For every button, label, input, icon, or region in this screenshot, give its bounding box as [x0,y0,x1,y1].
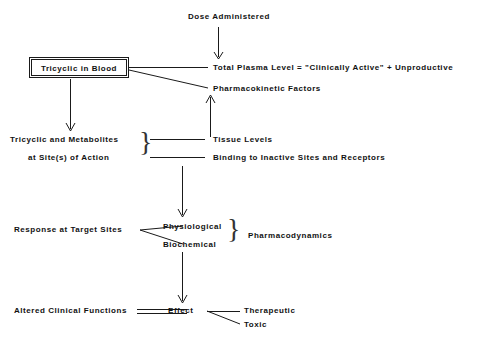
node-physiological: Physiological [163,222,222,232]
node-binding-to-inactive-sites: Binding to Inactive Sites and Receptors [213,153,385,163]
node-tissue-levels: Tissue Levels [213,135,272,145]
node-biochemical: Biochemical [163,240,216,250]
node-tricyclic-and-metabolites: Tricyclic and Metabolites [10,135,118,145]
node-dose-administered: Dose Administered [188,12,270,22]
node-therapeutic: Therapeutic [244,306,295,316]
diagram-connector-layer [0,0,493,340]
node-total-plasma-level: Total Plasma Level = "Clinically Active"… [213,63,453,73]
edge-effect-to-toxic [207,311,240,324]
node-response-at-target-sites: Response at Target Sites [14,225,122,235]
node-at-sites-of-action: at Site(s) of Action [28,153,109,163]
edge-blood-to-pkfactors [129,70,208,88]
node-toxic: Toxic [244,320,267,330]
pharmacodynamics-brace: } [227,215,240,243]
node-altered-clinical-functions: Altered Clinical Functions [14,306,127,316]
node-pharmacokinetic-factors: Pharmacokinetic Factors [213,84,321,94]
site-of-action-brace: } [139,128,152,156]
node-pharmacodynamics: Pharmacodynamics [248,231,332,241]
node-effect: Effect [168,306,194,316]
node-tricyclic-in-blood-box: Tricyclic in Blood [29,57,129,78]
node-tricyclic-in-blood-label: Tricyclic in Blood [30,63,128,72]
pharmacokinetics-flow-diagram: Dose Administered Tricyclic in Blood Tot… [0,0,493,340]
